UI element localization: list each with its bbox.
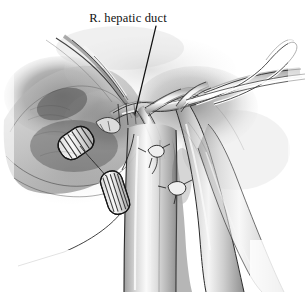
label-r-hepatic-duct: R. hepatic duct xyxy=(89,11,167,25)
surgical-illustration-figure: R. hepatic duct xyxy=(0,0,305,294)
illustration-canvas: R. hepatic duct xyxy=(0,0,305,294)
